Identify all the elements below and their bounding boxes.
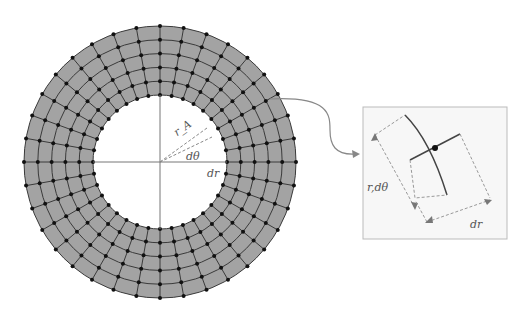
mesh-node: [192, 218, 196, 222]
mesh-node: [142, 253, 146, 257]
mesh-node: [226, 42, 230, 46]
mesh-node: [125, 218, 129, 222]
mesh-node: [262, 73, 266, 77]
mesh-node: [142, 67, 146, 71]
mesh-node: [100, 194, 104, 198]
mesh-node: [64, 214, 68, 218]
inset-arc-length-label: r,dθ: [367, 181, 389, 194]
mesh-node: [86, 99, 90, 103]
mesh-node: [158, 296, 162, 300]
mesh-node: [30, 207, 34, 211]
mesh-node: [251, 144, 255, 148]
mesh-node: [79, 254, 83, 258]
mesh-node: [252, 239, 256, 243]
mesh-node: [158, 282, 162, 286]
mesh-node: [292, 184, 296, 188]
mesh-node: [88, 243, 92, 247]
mesh-node: [216, 127, 220, 131]
mesh-node: [106, 98, 110, 102]
mesh-node: [75, 90, 79, 94]
mesh-node: [201, 211, 205, 215]
mesh-node: [65, 144, 69, 148]
mesh-node: [51, 141, 55, 145]
mesh-node: [264, 221, 268, 225]
mesh-node: [134, 294, 138, 298]
mesh-node: [228, 120, 232, 124]
mesh-node: [125, 102, 129, 106]
mesh-node: [111, 78, 115, 82]
mesh-node: [280, 160, 284, 164]
mesh-node: [24, 136, 28, 140]
mesh-node: [286, 113, 290, 117]
mesh-node: [252, 106, 256, 110]
mesh-node: [97, 232, 101, 236]
polar-mesh-diagram: r_A dθ dr r,dθ dr: [0, 0, 528, 309]
mesh-node: [177, 53, 181, 57]
mesh-node: [265, 179, 269, 183]
mesh-node: [88, 120, 92, 124]
mesh-node: [92, 172, 96, 176]
mesh-node: [43, 118, 47, 122]
mesh-node: [106, 222, 110, 226]
mesh-node: [158, 241, 162, 245]
mesh-node: [237, 254, 241, 258]
mesh-node: [90, 278, 94, 282]
mesh-node: [36, 160, 40, 164]
mesh-node: [219, 54, 223, 58]
mesh-node: [88, 200, 92, 204]
mesh-node: [205, 288, 209, 292]
mesh-node: [210, 222, 214, 226]
mesh-node: [115, 109, 119, 113]
mesh-node: [40, 92, 44, 96]
mesh-node: [190, 249, 194, 253]
mesh-node: [186, 236, 190, 240]
angle-label: dθ: [186, 150, 200, 163]
mesh-node: [276, 92, 280, 96]
mesh-node: [71, 264, 75, 268]
mesh-node: [220, 108, 224, 112]
mesh-node: [252, 214, 256, 218]
mesh-node: [192, 102, 196, 106]
mesh-node: [266, 160, 270, 164]
mesh-node: [104, 254, 108, 258]
mesh-node: [241, 230, 245, 234]
mesh-node: [118, 90, 122, 94]
mesh-node: [24, 184, 28, 188]
mesh-node: [228, 200, 232, 204]
mesh-node: [177, 267, 181, 271]
mesh-node: [245, 264, 249, 268]
mesh-node: [212, 254, 216, 258]
mesh-node: [205, 242, 209, 246]
mesh-node: [278, 181, 282, 185]
mesh-node: [158, 65, 162, 69]
mesh-node: [179, 40, 183, 44]
mesh-node: [30, 113, 34, 117]
radial-step-label: dr: [207, 167, 220, 180]
center-annotations: r_A dθ dr: [160, 118, 220, 180]
mesh-node: [43, 202, 47, 206]
mesh-node: [158, 38, 162, 42]
mesh-node: [186, 84, 190, 88]
mesh-node: [273, 202, 277, 206]
mesh-node: [56, 197, 60, 201]
mesh-node: [97, 88, 101, 92]
mesh-node: [230, 221, 234, 225]
mesh-node: [228, 243, 232, 247]
mesh-node: [134, 26, 138, 30]
mesh-node: [240, 207, 244, 211]
mesh-node: [135, 223, 139, 227]
mesh-node: [253, 160, 257, 164]
mesh-node: [226, 278, 230, 282]
mesh-node: [245, 56, 249, 60]
mesh-node: [158, 268, 162, 272]
mesh-node: [144, 80, 148, 84]
mesh-node: [212, 66, 216, 70]
mesh-node: [247, 192, 251, 196]
mesh-node: [116, 45, 120, 49]
mesh-node: [64, 239, 68, 243]
mesh-node: [38, 139, 42, 143]
mesh-node: [92, 148, 96, 152]
mesh-node: [75, 230, 79, 234]
mesh-node: [234, 132, 238, 136]
mesh-node: [97, 266, 101, 270]
